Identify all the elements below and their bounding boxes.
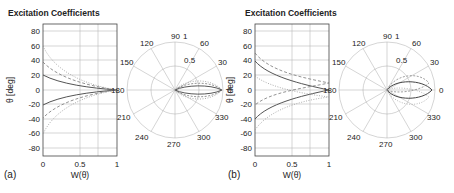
svg-text:0: 0 [253, 160, 258, 169]
chart-title-b: Excitation Coefficients [245, 8, 337, 18]
svg-text:1: 1 [395, 32, 400, 41]
svg-text:240: 240 [135, 133, 149, 142]
panel-a-cartesian: Excitation Coefficients 80 60 40 20 0 [4, 8, 120, 180]
svg-text:60: 60 [243, 42, 252, 51]
svg-text:60: 60 [200, 39, 209, 48]
svg-text:-20: -20 [240, 100, 252, 109]
svg-text:0: 0 [248, 86, 253, 95]
svg-text:80: 80 [243, 27, 252, 36]
x-tick-labels-b: 0 0.5 1 [253, 160, 332, 169]
svg-text:150: 150 [120, 58, 134, 67]
svg-text:180: 180 [323, 86, 337, 95]
svg-text:-80: -80 [240, 144, 252, 153]
svg-text:300: 300 [409, 133, 423, 142]
svg-text:1: 1 [183, 32, 188, 41]
figure: Excitation Coefficients 80 60 40 20 0 [0, 0, 454, 193]
svg-text:-20: -20 [28, 100, 40, 109]
x-axis-label-a: W(θ) [71, 170, 90, 180]
svg-text:210: 210 [329, 113, 343, 122]
svg-text:120: 120 [352, 39, 366, 48]
svg-text:40: 40 [243, 56, 252, 65]
svg-text:90: 90 [383, 32, 392, 41]
y-axis-label-a: θ [deg] [5, 77, 15, 103]
grid-b [255, 24, 329, 156]
polar-angle-labels-b: 0 30 60 90 120 150 180 210 240 270 300 3… [323, 32, 444, 149]
chart-title-a: Excitation Coefficients [8, 8, 100, 18]
svg-text:0.5: 0.5 [74, 160, 86, 169]
svg-text:270: 270 [379, 140, 393, 149]
svg-text:180: 180 [111, 86, 125, 95]
svg-text:0: 0 [41, 160, 46, 169]
svg-text:20: 20 [31, 71, 40, 80]
svg-text:-60: -60 [240, 129, 252, 138]
svg-text:1: 1 [115, 160, 120, 169]
svg-text:-40: -40 [240, 115, 252, 124]
svg-text:330: 330 [215, 113, 229, 122]
panel-b-cartesian: Excitation Coefficients 80 60 40 20 0 -2… [225, 8, 337, 180]
x-axis-label-b: W(θ) [283, 170, 302, 180]
svg-text:210: 210 [117, 113, 131, 122]
svg-text:0: 0 [439, 86, 444, 95]
svg-text:330: 330 [427, 113, 441, 122]
panel-a-polar: 0 30 60 90 120 150 180 210 240 270 300 3… [111, 32, 232, 149]
svg-text:60: 60 [412, 39, 421, 48]
svg-text:90: 90 [171, 32, 180, 41]
svg-text:0.5: 0.5 [286, 160, 298, 169]
panel-b-polar: 0 30 60 90 120 150 180 210 240 270 300 3… [323, 32, 444, 149]
svg-text:300: 300 [197, 133, 211, 142]
svg-text:150: 150 [332, 58, 346, 67]
svg-text:270: 270 [167, 140, 181, 149]
panel-label-a: (a) [4, 169, 16, 180]
y-tick-labels-b: 80 60 40 20 0 -20 -40 -60 -80 [240, 27, 252, 153]
svg-text:20: 20 [243, 71, 252, 80]
svg-text:-80: -80 [28, 144, 40, 153]
svg-text:0: 0 [36, 86, 41, 95]
svg-text:-40: -40 [28, 115, 40, 124]
grid-a [43, 24, 117, 156]
svg-text:30: 30 [430, 58, 439, 67]
svg-text:-60: -60 [28, 129, 40, 138]
svg-text:30: 30 [218, 58, 227, 67]
y-tick-labels-a: 80 60 40 20 0 -20 -40 -60 -80 [28, 27, 40, 153]
svg-text:0.5: 0.5 [184, 56, 196, 65]
svg-text:80: 80 [31, 27, 40, 36]
svg-text:240: 240 [347, 133, 361, 142]
y-axis-label-b: θ [deg] [225, 77, 235, 103]
panel-label-b: (b) [228, 169, 240, 180]
svg-text:120: 120 [140, 39, 154, 48]
polar-angle-labels-a: 0 30 60 90 120 150 180 210 240 270 300 3… [111, 32, 232, 149]
svg-text:0.5: 0.5 [396, 56, 408, 65]
x-tick-labels-a: 0 0.5 1 [41, 160, 120, 169]
svg-text:1: 1 [327, 160, 332, 169]
svg-text:40: 40 [31, 56, 40, 65]
svg-text:60: 60 [31, 42, 40, 51]
